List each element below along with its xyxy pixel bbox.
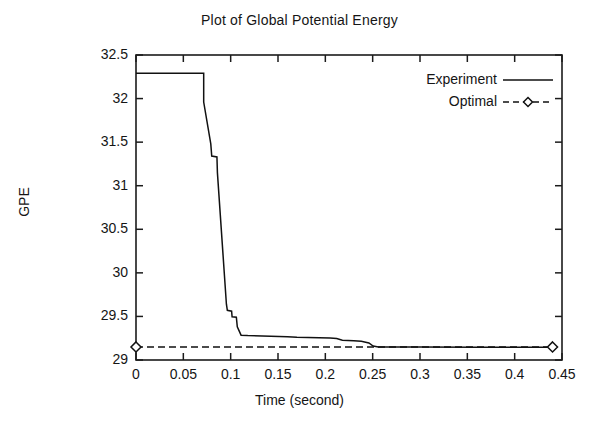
- series-marker-diamond: [131, 342, 141, 352]
- series-marker-diamond: [548, 342, 558, 352]
- legend-marker-diamond: [524, 98, 533, 107]
- plot-canvas: [0, 0, 599, 426]
- chart-figure: Plot of Global Potential Energy GPE Time…: [0, 0, 599, 426]
- axis-ticks: [136, 55, 562, 360]
- series-line-experiment: [136, 73, 553, 347]
- data-series: [131, 73, 558, 352]
- legend-glyphs: [503, 80, 553, 107]
- axes-frame: [136, 55, 562, 360]
